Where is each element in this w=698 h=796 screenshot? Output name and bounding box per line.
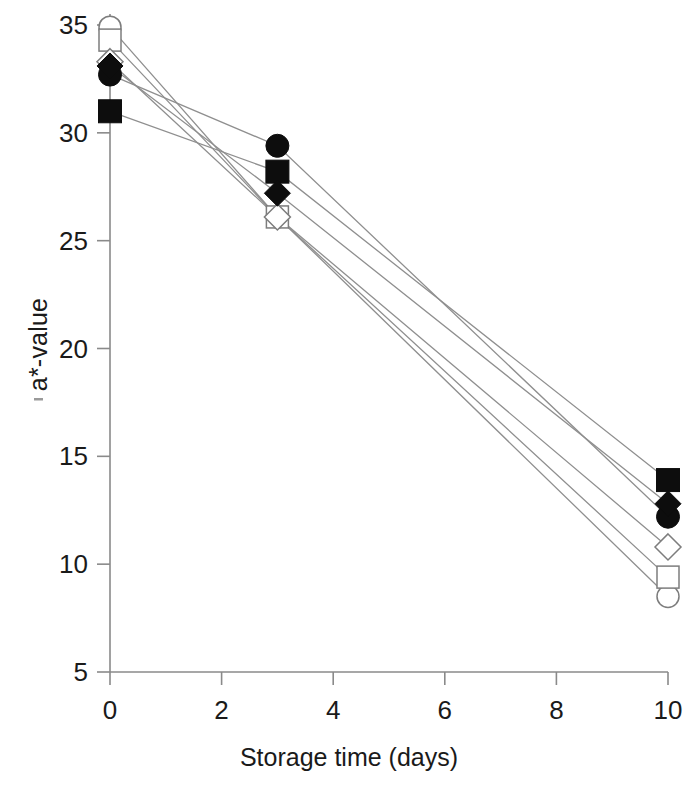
- y-axis-title: a*-value: [24, 265, 53, 425]
- marker-filled-square: [657, 469, 680, 492]
- y-tick-label: 30: [59, 118, 88, 148]
- y-tick-label: 15: [59, 441, 88, 471]
- chart-figure: 5101520253035 0246810 a*-value Storage t…: [0, 0, 698, 796]
- y-tick-label: 35: [59, 10, 88, 40]
- y-tick-label: 20: [59, 334, 88, 364]
- y-tick-label: 10: [59, 549, 88, 579]
- series-lines: [110, 27, 668, 596]
- series-line-filled-square: [110, 111, 668, 480]
- y-tick-label: 5: [74, 657, 88, 687]
- x-axis-title: Storage time (days): [0, 743, 698, 772]
- marker-open-square: [657, 566, 679, 588]
- x-tick-label: 2: [214, 695, 228, 725]
- x-tick-label: 6: [438, 695, 452, 725]
- x-tick-label: 4: [326, 695, 340, 725]
- x-tick-label: 10: [654, 695, 683, 725]
- y-axis-tick-labels: 5101520253035: [59, 10, 88, 687]
- y-tick-label: 25: [59, 226, 88, 256]
- chart-plot-area: 5101520253035 0246810: [0, 0, 698, 740]
- series-line-open-diamond: [110, 62, 668, 547]
- x-axis-tick-labels: 0246810: [103, 695, 683, 725]
- marker-open-diamond: [655, 534, 681, 560]
- x-axis-ticks: [110, 672, 668, 685]
- marker-filled-circle: [266, 134, 289, 157]
- series-line-open-square: [110, 40, 668, 577]
- marker-filled-square: [99, 100, 122, 123]
- x-tick-label: 8: [549, 695, 563, 725]
- x-tick-label: 0: [103, 695, 117, 725]
- marker-filled-diamond: [264, 180, 290, 206]
